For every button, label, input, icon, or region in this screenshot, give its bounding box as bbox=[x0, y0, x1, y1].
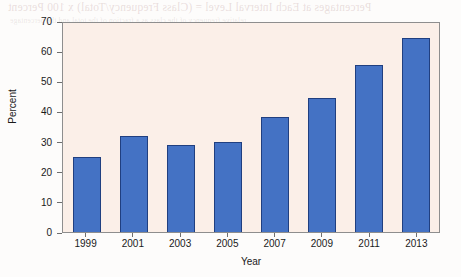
y-axis-tick-label: 20 bbox=[41, 168, 57, 178]
x-axis-tick-mark bbox=[416, 233, 417, 237]
bar[interactable] bbox=[261, 117, 289, 232]
bar-slot bbox=[251, 23, 298, 232]
bar-slot bbox=[204, 23, 251, 232]
x-axis-tick: 2001 bbox=[109, 233, 156, 253]
x-axis-tick-mark bbox=[227, 233, 228, 237]
bar-slot bbox=[110, 23, 157, 232]
bar[interactable] bbox=[214, 142, 242, 232]
x-axis-tick-label: 1999 bbox=[75, 239, 97, 249]
x-axis-tick: 2011 bbox=[346, 233, 393, 253]
bars-container bbox=[63, 23, 439, 232]
y-axis-tick-label: 40 bbox=[41, 107, 57, 117]
x-axis-tick: 2003 bbox=[157, 233, 204, 253]
bar[interactable] bbox=[308, 98, 336, 232]
y-axis-tick-label: 30 bbox=[41, 138, 57, 148]
bar-slot bbox=[345, 23, 392, 232]
x-axis-tick-label: 2013 bbox=[405, 239, 427, 249]
bar[interactable] bbox=[73, 157, 101, 232]
bar[interactable] bbox=[167, 145, 195, 232]
bar-slot bbox=[63, 23, 110, 232]
x-axis: 19992001200320052007200920112013 bbox=[62, 233, 440, 253]
x-axis-tick-mark bbox=[321, 233, 322, 237]
bar-slot bbox=[157, 23, 204, 232]
x-axis-tick-label: 2009 bbox=[311, 239, 333, 249]
bar-slot bbox=[392, 23, 439, 232]
x-axis-tick-label: 2001 bbox=[122, 239, 144, 249]
bar[interactable] bbox=[120, 136, 148, 232]
x-axis-tick: 1999 bbox=[62, 233, 109, 253]
x-axis-tick-mark bbox=[180, 233, 181, 237]
x-axis-tick: 2005 bbox=[204, 233, 251, 253]
x-axis-title: Year bbox=[62, 256, 440, 267]
x-axis-tick-label: 2005 bbox=[216, 239, 238, 249]
bar-chart-figure: 010203040506070 Percent 1999200120032005… bbox=[0, 0, 461, 277]
y-axis-tick-label: 0 bbox=[46, 228, 57, 238]
y-axis-tick-label: 70 bbox=[41, 17, 57, 27]
bar[interactable] bbox=[402, 38, 430, 232]
x-axis-tick: 2009 bbox=[298, 233, 345, 253]
x-axis-tick-mark bbox=[85, 233, 86, 237]
x-axis-tick-mark bbox=[369, 233, 370, 237]
bar[interactable] bbox=[355, 65, 383, 232]
x-axis-tick-label: 2007 bbox=[264, 239, 286, 249]
bar-slot bbox=[298, 23, 345, 232]
plot-area bbox=[62, 22, 440, 233]
x-axis-tick-label: 2011 bbox=[358, 239, 380, 249]
x-axis-tick-label: 2003 bbox=[169, 239, 191, 249]
x-axis-tick: 2013 bbox=[393, 233, 440, 253]
x-axis-tick-mark bbox=[274, 233, 275, 237]
x-axis-tick: 2007 bbox=[251, 233, 298, 253]
y-axis-tick-label: 50 bbox=[41, 77, 57, 87]
y-axis-title: Percent bbox=[7, 67, 18, 147]
x-axis-tick-mark bbox=[132, 233, 133, 237]
y-axis-tick-label: 10 bbox=[41, 198, 57, 208]
y-axis-tick-label: 60 bbox=[41, 47, 57, 57]
